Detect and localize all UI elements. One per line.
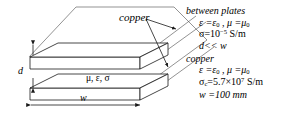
bp-sigma-exponent: −5 [220, 28, 227, 35]
cu-width-text: w =100 mm [199, 89, 247, 100]
separation-dimension-label: d [18, 66, 23, 76]
copper-callout-label: copper [119, 12, 150, 23]
bp-mu-sub: 0 [246, 21, 249, 28]
top-plate [30, 43, 168, 69]
waveguide-drawing [0, 0, 300, 113]
parallel-plate-waveguide-figure: copper μ, ε, σ d w between plates ε =ε0 … [0, 0, 300, 113]
copper-conductivity: σc=5.7×107 S/m [199, 77, 263, 88]
cu-mu-sub: 0 [246, 68, 249, 75]
bp-sigma-prefix: σ=10 [199, 28, 220, 39]
interior-material-label: μ, ε, σ [86, 74, 110, 84]
copper-width-value: w =100 mm [199, 90, 247, 100]
bp-eps-prefix: ε =ε [199, 17, 216, 28]
between-plates-conductivity: σ=10−5 S/m [199, 29, 246, 39]
copper-heading: copper [186, 54, 214, 64]
thin-gap-condition: d<< w [199, 41, 227, 51]
cu-sigma-units: S/m [244, 76, 263, 87]
width-dimension-label: w [80, 93, 87, 103]
cu-eps-prefix: ε =ε [199, 64, 216, 75]
between-plates-heading: between plates [186, 6, 245, 16]
bp-sigma-units: S/m [227, 28, 246, 39]
cu-mu-mid: , μ =μ [219, 64, 246, 75]
cu-sigma-mid: =5.7×10 [207, 76, 241, 87]
copper-permittivity-permeability: ε =ε0 , μ =μ0 [199, 65, 250, 76]
bp-mu-mid: , μ =μ [219, 17, 246, 28]
